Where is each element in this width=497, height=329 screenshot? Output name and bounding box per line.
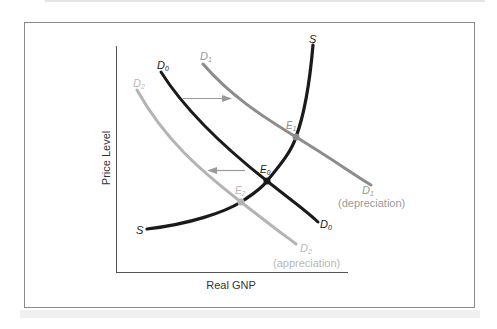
label-depreciation: (depreciation) — [338, 197, 405, 209]
shift-left-arrow — [207, 167, 245, 174]
point-e0 — [264, 178, 271, 185]
curve-s — [147, 45, 313, 229]
label-s-bottom: S — [136, 224, 144, 236]
label-d0-top: D0 — [157, 59, 169, 72]
label-e0: E0 — [260, 164, 271, 176]
label-e1: E1 — [286, 120, 297, 132]
chart-canvas: S S D0 D0 D1 D1 (depreciation) D2 D2 (ap… — [0, 0, 497, 329]
y-axis-label: Price Level — [100, 131, 112, 185]
point-e2 — [238, 199, 245, 206]
label-d1-top: D1 — [200, 50, 212, 63]
label-d2-top: D2 — [133, 77, 145, 90]
label-d2-end: D2 — [300, 242, 312, 255]
shift-right-arrow — [183, 95, 232, 102]
x-axis-label: Real GNP — [206, 279, 256, 291]
label-s-top: S — [309, 33, 317, 45]
label-d0-end: D0 — [320, 218, 332, 231]
label-e2: E2 — [235, 185, 246, 197]
label-appreciation: (appreciation) — [273, 257, 340, 269]
point-e1 — [293, 134, 300, 141]
curve-d2 — [137, 90, 296, 244]
